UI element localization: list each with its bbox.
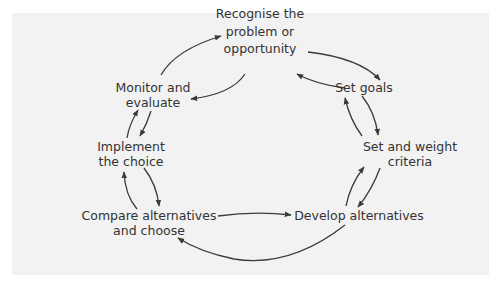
arrow-setweight-to-develop — [358, 168, 380, 207]
node-develop-alternatives: Develop alternatives — [294, 208, 424, 223]
arrow-compare-to-develop — [218, 213, 291, 216]
node-monitor-evaluate: Monitor and evaluate — [115, 80, 190, 110]
node-set-weight-criteria: Set and weight criteria — [363, 139, 457, 169]
node-label-line: opportunity — [216, 41, 304, 56]
node-label-line: Monitor and — [115, 80, 190, 95]
node-implement-choice: Implement the choice — [97, 139, 165, 169]
node-compare-alternatives: Compare alternatives and choose — [82, 208, 217, 238]
node-label-line: Develop alternatives — [294, 208, 424, 223]
node-label-line: Recognise the — [216, 6, 304, 21]
arrow-recognise-to-monitor — [191, 74, 245, 99]
node-label-line: Compare alternatives — [82, 208, 217, 223]
node-label-line: Set and weight — [363, 139, 457, 154]
node-label-line: Implement — [97, 139, 165, 154]
arrow-implement-to-monitor — [127, 110, 138, 138]
arrow-monitor-to-recognise — [161, 36, 221, 75]
node-label-line: criteria — [363, 154, 457, 169]
node-label-line: the choice — [97, 154, 165, 169]
arrow-setgoals-to-setweight — [362, 96, 378, 135]
arrow-setweight-to-setgoals — [345, 98, 362, 136]
arrow-monitor-to-implement — [140, 111, 151, 136]
arrow-compare-to-implement — [124, 172, 137, 209]
node-label-line: Set goals — [335, 80, 393, 95]
node-label-line: and choose — [82, 223, 217, 238]
arrow-develop-to-setweight — [346, 167, 364, 206]
arrow-recognise-to-setgoals — [308, 52, 380, 80]
arrow-implement-to-compare — [144, 168, 159, 206]
node-recognise-problem: Recognise the problem or opportunity — [216, 6, 304, 56]
node-set-goals: Set goals — [335, 80, 393, 95]
node-label-line: evaluate — [115, 95, 190, 110]
node-label-line: problem or — [216, 24, 304, 39]
